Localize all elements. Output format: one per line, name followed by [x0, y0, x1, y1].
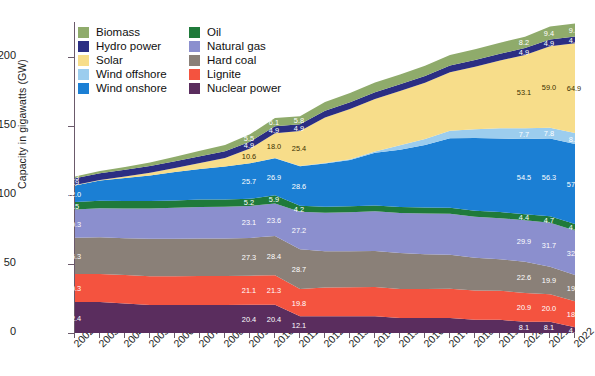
legend-label: Wind onshore	[96, 82, 167, 94]
legend-swatch-icon	[78, 27, 89, 38]
y-axis-tick-label: 0	[0, 325, 16, 337]
y-axis-tick-label: 50	[0, 256, 16, 268]
legend-item[interactable]: Lignite	[189, 68, 281, 80]
y-axis-tick-label: 150	[0, 118, 16, 130]
legend-swatch-icon	[78, 83, 89, 94]
legend-label: Wind offshore	[96, 68, 167, 80]
legend-item[interactable]: Hydro power	[78, 40, 167, 52]
legend-label: Hydro power	[96, 40, 161, 52]
legend-swatch-icon	[189, 55, 200, 66]
chart-root: Capacity in gigawatts (GW) 050100150200 …	[0, 0, 595, 376]
legend-item[interactable]: Wind onshore	[78, 82, 167, 94]
legend-item[interactable]: Nuclear power	[189, 82, 281, 94]
y-axis-tick-label: 200	[0, 49, 16, 61]
chart-legend: BiomassOilHydro powerNatural gasSolarHar…	[78, 26, 281, 94]
legend-item[interactable]: Oil	[189, 26, 281, 38]
y-axis-title: Capacity in gigawatts (GW)	[16, 0, 28, 274]
legend-swatch-icon	[189, 69, 200, 80]
legend-swatch-icon	[78, 69, 89, 80]
legend-label: Lignite	[207, 68, 241, 80]
legend-label: Oil	[207, 26, 221, 38]
legend-label: Solar	[96, 54, 123, 66]
legend-swatch-icon	[189, 41, 200, 52]
legend-item[interactable]: Solar	[78, 54, 167, 66]
legend-item[interactable]: Biomass	[78, 26, 167, 38]
legend-item[interactable]: Natural gas	[189, 40, 281, 52]
legend-swatch-icon	[78, 55, 89, 66]
legend-swatch-icon	[189, 27, 200, 38]
legend-item[interactable]: Wind offshore	[78, 68, 167, 80]
legend-label: Nuclear power	[207, 82, 281, 94]
legend-swatch-icon	[78, 41, 89, 52]
legend-item[interactable]: Hard coal	[189, 54, 281, 66]
legend-swatch-icon	[189, 83, 200, 94]
y-axis-tick-label: 100	[0, 187, 16, 199]
legend-label: Natural gas	[207, 40, 266, 52]
legend-label: Hard coal	[207, 54, 256, 66]
legend-label: Biomass	[96, 26, 140, 38]
